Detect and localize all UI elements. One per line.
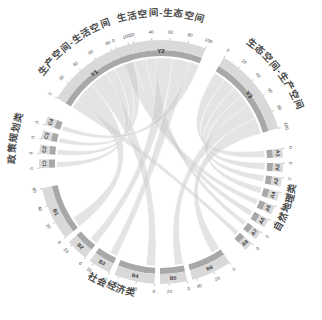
- tick-label: 40: [72, 60, 79, 67]
- tick-label: 0: [28, 151, 33, 154]
- axis-tick: [43, 124, 45, 125]
- tick-label: 40: [196, 283, 203, 289]
- tick-label: 60: [87, 49, 94, 56]
- tick-label: 60: [267, 87, 274, 94]
- group-label-y2: 生活空间-生态空间: [116, 7, 206, 24]
- axis-tick: [263, 94, 265, 95]
- axis-tick: [252, 79, 253, 80]
- tick-label: 0: [187, 286, 191, 292]
- segment-label-A1: A1: [275, 150, 281, 157]
- arc-band-inner-A1[interactable]: [266, 149, 273, 158]
- chord-diagram-figure: 020406080100Y2020406080100Y30A10A20A30A4…: [0, 0, 322, 320]
- tick-label: 20: [214, 275, 221, 282]
- tick-label: 0: [29, 167, 34, 170]
- axis-tick: [206, 47, 207, 49]
- segment-label-C1: C1: [42, 160, 48, 167]
- axis-tick: [118, 276, 119, 278]
- tick-label: 0: [34, 120, 40, 124]
- axis-label-Y2: Y2: [157, 47, 165, 54]
- tick-label: 0: [288, 146, 293, 150]
- axis-tick: [79, 69, 80, 71]
- tick-label: 20: [167, 289, 173, 294]
- axis-tick: [116, 47, 117, 49]
- tick-label: 60: [31, 187, 37, 194]
- axis-tick: [128, 42, 129, 44]
- tick-label: 20: [45, 223, 52, 230]
- axis-tick: [239, 67, 240, 69]
- arc-band-inner-C1[interactable]: [49, 159, 55, 167]
- arc-band-inner-C2[interactable]: [49, 146, 56, 155]
- ribbon-layer: [57, 58, 265, 266]
- axis-tick: [269, 219, 271, 220]
- axis-tick: [278, 128, 280, 129]
- tick-label: 80: [276, 104, 283, 111]
- tick-label: 0: [111, 38, 116, 44]
- segment-label-C2: C2: [41, 146, 48, 153]
- axis-tick: [230, 263, 231, 265]
- tick-label: 80: [187, 32, 194, 38]
- axis-tick: [224, 56, 225, 58]
- tick-label: 20: [63, 247, 70, 254]
- tick-label: 0: [287, 177, 292, 181]
- tick-label: 20: [241, 58, 248, 65]
- segment-label-A3: A3: [272, 177, 279, 185]
- tick-label: 0: [265, 233, 271, 238]
- group-label-policy-planning: 政策规划类: [6, 110, 25, 164]
- tick-label: 100: [204, 37, 213, 45]
- tick-label: 0: [232, 266, 237, 272]
- segment-label-A2: A2: [274, 164, 280, 171]
- axis-tick: [109, 273, 110, 275]
- tick-label: 0: [288, 161, 293, 164]
- tick-label: 0: [47, 91, 53, 96]
- axis-tick: [261, 232, 263, 233]
- axis-tick: [92, 264, 93, 266]
- tick-label: 0: [56, 240, 62, 245]
- tick-label: 100: [283, 122, 290, 131]
- tick-label: 0: [255, 246, 261, 252]
- axis-tick: [252, 243, 253, 244]
- axis-tick: [70, 245, 71, 246]
- axis-tick: [45, 206, 47, 207]
- axis-tick: [84, 258, 85, 260]
- tick-label: 0: [226, 48, 231, 54]
- axis-tick: [275, 206, 277, 207]
- axis-tick: [66, 82, 68, 83]
- tick-label: 0: [30, 135, 35, 139]
- tick-label: 20: [58, 74, 65, 81]
- tick-label: 0: [153, 289, 156, 294]
- tick-label: 40: [149, 29, 155, 34]
- axis-tick: [64, 238, 66, 239]
- axis-tick: [197, 279, 198, 281]
- axis-tick: [55, 97, 57, 98]
- tick-label: 40: [255, 72, 262, 79]
- segment-label-B5: B5: [169, 274, 176, 281]
- tick-label: 80: [105, 40, 112, 47]
- axis-tick: [94, 58, 95, 60]
- tick-label: 0: [78, 261, 83, 267]
- axis-tick: [272, 110, 274, 111]
- axis-tick: [214, 272, 215, 274]
- arc-band-inner-A2[interactable]: [267, 163, 273, 171]
- tick-label: 60: [168, 29, 174, 34]
- chord-diagram-svg: 020406080100Y2020406080100Y30A10A20A30A4…: [0, 0, 322, 320]
- group-label-natural-geography: 自然地理类: [271, 182, 298, 233]
- axis-tick: [53, 222, 55, 223]
- tick-label: 40: [37, 205, 44, 212]
- axis-tick: [110, 49, 111, 51]
